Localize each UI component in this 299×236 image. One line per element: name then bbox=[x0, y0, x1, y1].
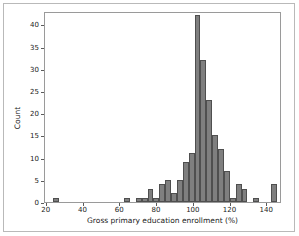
histogram-bar bbox=[53, 198, 59, 202]
y-tick-label: 10 bbox=[17, 155, 39, 163]
x-tick-label: 20 bbox=[41, 206, 50, 214]
histogram-bar bbox=[242, 189, 248, 202]
histogram-bar bbox=[271, 184, 277, 202]
x-axis-label: Gross primary education enrollment (%) bbox=[44, 216, 281, 225]
figure-canvas: Count Gross primary education enrollment… bbox=[0, 0, 299, 236]
y-tick-mark bbox=[41, 181, 44, 182]
x-tick-label: 100 bbox=[186, 206, 199, 214]
histogram-bars bbox=[45, 13, 280, 202]
histogram-bar bbox=[124, 198, 130, 202]
histogram-bar bbox=[253, 198, 259, 202]
x-tick-label: 80 bbox=[152, 206, 161, 214]
y-tick-mark bbox=[41, 70, 44, 71]
x-tick-label: 40 bbox=[78, 206, 87, 214]
y-tick-mark bbox=[41, 92, 44, 93]
y-tick-mark bbox=[41, 114, 44, 115]
y-tick-mark bbox=[41, 159, 44, 160]
y-tick-label: 0 bbox=[17, 199, 39, 207]
x-tick-label: 60 bbox=[115, 206, 124, 214]
plot-area bbox=[44, 12, 281, 203]
y-tick-label: 15 bbox=[17, 132, 39, 140]
y-tick-mark bbox=[41, 203, 44, 204]
y-tick-label: 25 bbox=[17, 88, 39, 96]
y-tick-label: 20 bbox=[17, 110, 39, 118]
y-tick-label: 35 bbox=[17, 44, 39, 52]
y-tick-mark bbox=[41, 136, 44, 137]
y-tick-label: 40 bbox=[17, 21, 39, 29]
y-tick-label: 5 bbox=[17, 177, 39, 185]
y-tick-mark bbox=[41, 48, 44, 49]
y-tick-mark bbox=[41, 25, 44, 26]
x-tick-label: 140 bbox=[260, 206, 273, 214]
y-tick-label: 30 bbox=[17, 66, 39, 74]
x-tick-label: 120 bbox=[223, 206, 236, 214]
